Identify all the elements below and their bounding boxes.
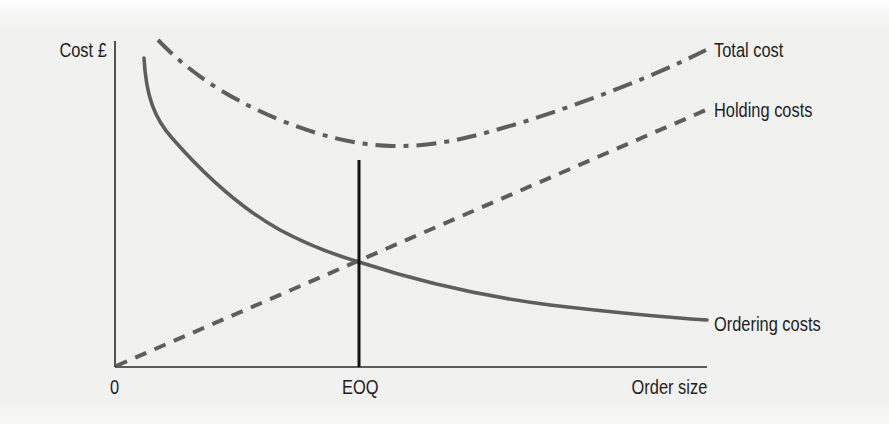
holding-costs-label: Holding costs bbox=[714, 100, 812, 120]
eoq-label: EOQ bbox=[342, 377, 378, 397]
ordering-costs-label: Ordering costs bbox=[714, 314, 821, 334]
x-axis-label: Order size bbox=[631, 377, 707, 397]
origin-label: 0 bbox=[110, 377, 119, 397]
total-cost-label: Total cost bbox=[714, 40, 783, 60]
y-axis-label: Cost £ bbox=[60, 40, 107, 60]
total-cost-curve bbox=[158, 40, 706, 146]
ordering-costs-curve bbox=[144, 58, 707, 320]
holding-costs-line bbox=[116, 110, 706, 366]
eoq-chart bbox=[0, 0, 889, 424]
